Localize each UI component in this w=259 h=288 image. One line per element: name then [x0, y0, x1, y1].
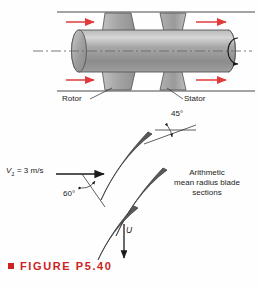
label-blade-sections-note: Arithmeticmean radius bladesections	[160, 168, 254, 199]
label-stator: Stator	[184, 95, 205, 104]
label-inlet-velocity: V1 = 3 m/s	[6, 167, 43, 177]
note-line-1: Arithmetic	[189, 168, 225, 177]
label-blade-speed: U	[126, 226, 132, 235]
label-angle-45: 45°	[171, 110, 183, 119]
note-line-3: sections	[192, 188, 221, 197]
caption-text: FIGURE P5.40	[20, 260, 113, 272]
red-square-bullet-icon	[8, 263, 14, 269]
note-line-2: mean radius blade	[174, 178, 240, 187]
label-rotor: Rotor	[62, 95, 82, 104]
label-angle-60: 60°	[63, 190, 75, 199]
velocity-value: = 3 m/s	[17, 166, 43, 175]
figure-graphics	[0, 0, 259, 288]
figure-p5-40: Rotor Stator 45° 60° V1 = 3 m/s U Arithm…	[0, 0, 259, 288]
leader-line-rotor	[90, 88, 112, 99]
velocity-subscript: 1	[11, 171, 14, 177]
figure-caption: FIGURE P5.40	[8, 260, 113, 272]
angle-60-construction	[82, 174, 105, 207]
